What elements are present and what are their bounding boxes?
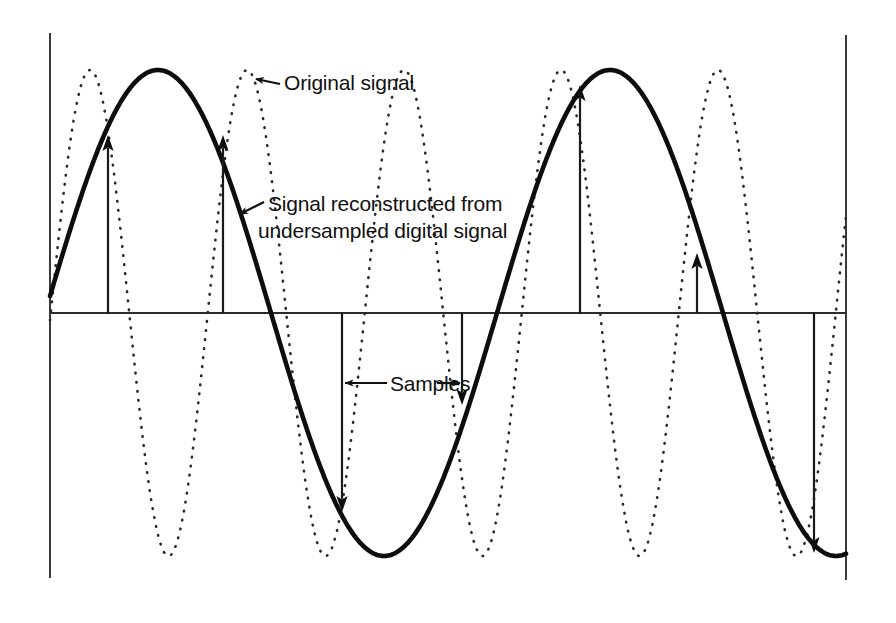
reconstructed-signal-label-line2: undersampled digital signal bbox=[258, 219, 507, 242]
signal-aliasing-figure: Original signal Signal reconstructed fro… bbox=[0, 0, 896, 623]
figure-root: Original signal Signal reconstructed fro… bbox=[0, 0, 896, 623]
reconstructed-signal-label-line1: Signal reconstructed from bbox=[268, 192, 502, 215]
original-signal-label: Original signal bbox=[284, 71, 414, 94]
samples-label: Samples bbox=[390, 372, 470, 395]
figure-background bbox=[0, 0, 896, 623]
